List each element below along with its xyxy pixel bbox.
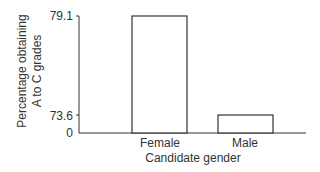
x-tick-label-female: Female (140, 136, 180, 150)
y-axis-title-line1: Percentage obtaining (15, 14, 29, 127)
y-tick-label-mid: 73.6 (50, 109, 74, 123)
bar-female (132, 16, 187, 133)
y-axis-title-line2: A to C grades (30, 35, 44, 108)
y-tick-label-top: 79.1 (50, 9, 74, 23)
bar-male (218, 115, 273, 133)
x-axis-title: Candidate gender (145, 151, 240, 165)
y-tick-label-zero: 0 (66, 126, 73, 140)
bar-chart: 79.1 73.6 0 Female Male Candidate gender… (0, 0, 320, 172)
x-tick-label-male: Male (232, 136, 258, 150)
